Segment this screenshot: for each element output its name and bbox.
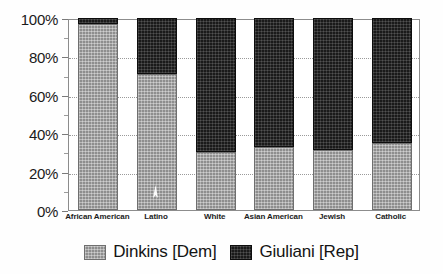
y-tick-label: 40% — [29, 126, 58, 143]
chart-legend: Dinkins [Dem]Giuliani [Rep] — [0, 236, 443, 268]
bar-column[interactable] — [372, 20, 412, 210]
bar-segment-giuliani[interactable] — [196, 18, 236, 152]
bar-segment-giuliani[interactable] — [137, 18, 177, 74]
bar-column[interactable] — [137, 20, 177, 210]
bar-segment-dinkins[interactable] — [313, 150, 353, 210]
y-tick-label: 60% — [29, 87, 58, 104]
legend-label: Giuliani [Rep] — [259, 242, 358, 262]
bar-segment-giuliani[interactable] — [372, 18, 412, 143]
x-tick-label: Catholic — [375, 212, 406, 221]
bar-column[interactable] — [196, 20, 236, 210]
bar-segment-dinkins[interactable] — [372, 143, 412, 210]
bar-column[interactable] — [78, 20, 118, 210]
bar-group — [69, 20, 419, 210]
bar-segment-giuliani[interactable] — [254, 18, 294, 147]
x-tick-label: Latino — [144, 212, 167, 221]
legend-item[interactable]: Giuliani [Rep] — [230, 242, 358, 262]
bar-column[interactable] — [254, 20, 294, 210]
bar-segment-dinkins[interactable] — [196, 152, 236, 210]
bar-segment-dinkins[interactable] — [254, 147, 294, 210]
y-tick-label: 80% — [29, 49, 58, 66]
legend-swatch-icon — [230, 245, 252, 260]
y-axis: 100%80%60%40%20%0% — [0, 0, 66, 230]
bar-segment-giuliani[interactable] — [78, 18, 118, 24]
x-axis: African AmericanLatinoWhiteAsian America… — [0, 212, 443, 228]
legend-label: Dinkins [Dem] — [113, 242, 216, 262]
bar-segment-giuliani[interactable] — [313, 18, 353, 150]
bar-segment-dinkins[interactable] — [137, 74, 177, 210]
x-tick-label: Jewish — [319, 212, 345, 221]
y-tick-label: 100% — [21, 11, 58, 28]
x-tick-label: White — [204, 212, 225, 221]
y-tick-label: 20% — [29, 164, 58, 181]
bar-column[interactable] — [313, 20, 353, 210]
chart-root: 100%80%60%40%20%0% African AmericanLatin… — [0, 0, 443, 274]
bar-segment-dinkins[interactable] — [78, 24, 118, 210]
plot-area — [68, 19, 420, 211]
x-tick-label: Asian American — [244, 212, 303, 221]
x-tick-label: African American — [65, 212, 129, 221]
legend-swatch-icon — [84, 245, 106, 260]
legend-item[interactable]: Dinkins [Dem] — [84, 242, 216, 262]
